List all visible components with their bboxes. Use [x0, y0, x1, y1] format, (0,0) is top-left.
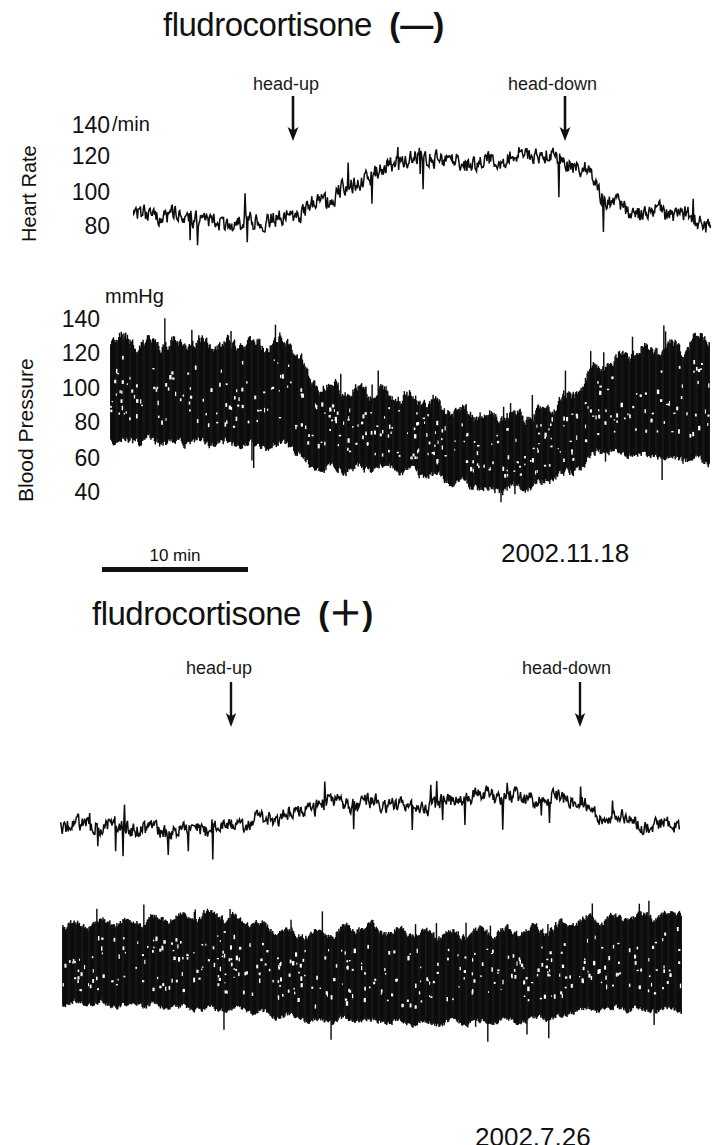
panel-b-event-head-down-arrow-icon [572, 682, 588, 728]
scale-bar-line [102, 567, 248, 572]
panel-a-title-text: fludrocortisone [163, 6, 372, 43]
panel-b-title-text: fludrocortisone [92, 595, 301, 632]
panel-b-event-head-up-arrow-icon [223, 682, 239, 728]
panel-a-bp-tick-40: 40 [40, 479, 100, 506]
panel-a-hr-tick-80: 80 [50, 213, 110, 240]
panel-a-hr-tick-120: 120 [50, 143, 110, 170]
figure-canvas: fludrocortisone (—) head-up head-down He… [0, 0, 720, 1145]
panel-a-hr-axis-label: Heart Rate [18, 145, 41, 242]
panel-b-title-sign: (＋) [318, 595, 373, 632]
panel-a-event-head-down-label: head-down [508, 74, 597, 95]
panel-b-date: 2002.7.26 [475, 1122, 591, 1145]
panel-a-event-head-up-label: head-up [253, 74, 319, 95]
panel-a-bp-tick-140: 140 [40, 306, 100, 333]
panel-a-bp-tick-120: 120 [40, 340, 100, 367]
panel-b-blood-pressure-trace [62, 900, 682, 1045]
panel-a-title-sign: (—) [389, 6, 444, 43]
panel-a-bp-axis-label: Blood Pressure [14, 358, 38, 502]
panel-a-bp-tick-60: 60 [40, 445, 100, 472]
panel-a-bp-tick-100: 100 [40, 375, 100, 402]
panel-a-hr-tick-140: 140 [50, 112, 110, 139]
panel-a-bp-unit-label: mmHg [105, 285, 164, 308]
panel-a-bp-tick-80: 80 [40, 409, 100, 436]
scale-bar-label: 10 min [102, 546, 248, 566]
panel-b-title: fludrocortisone (＋) [92, 587, 373, 635]
panel-a-hr-tick-100: 100 [50, 179, 110, 206]
panel-a-date: 2002.11.18 [501, 538, 629, 569]
panel-b-heart-rate-trace [60, 735, 680, 870]
panel-a-heart-rate-trace [133, 112, 711, 262]
panel-a-blood-pressure-trace [110, 310, 710, 510]
scale-bar: 10 min [102, 546, 248, 572]
panel-a-title: fludrocortisone (—) [163, 6, 444, 44]
panel-b-event-head-down-label: head-down [522, 658, 611, 679]
panel-b-event-head-up-label: head-up [186, 658, 252, 679]
